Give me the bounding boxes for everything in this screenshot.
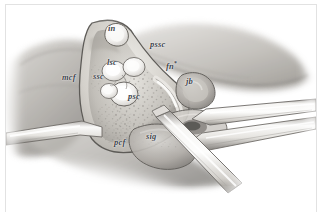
- label-in: in: [108, 24, 116, 33]
- label-psc: psc: [128, 92, 140, 101]
- label-ssc: ssc: [93, 72, 104, 81]
- label-pssc: pssc: [150, 40, 165, 49]
- label-pcf: pcf: [114, 138, 125, 147]
- figure-frame: in pssc lsc mcf ssc fn* jb psc pcf sig: [0, 0, 322, 217]
- label-jb: jb: [186, 77, 193, 86]
- label-lsc: lsc: [107, 58, 117, 67]
- label-mcf: mcf: [62, 73, 76, 82]
- label-fn: fn*: [166, 62, 177, 71]
- label-fn-marker: *: [174, 60, 177, 66]
- label-sig: sig: [146, 132, 157, 141]
- anatomical-illustration: [6, 5, 316, 212]
